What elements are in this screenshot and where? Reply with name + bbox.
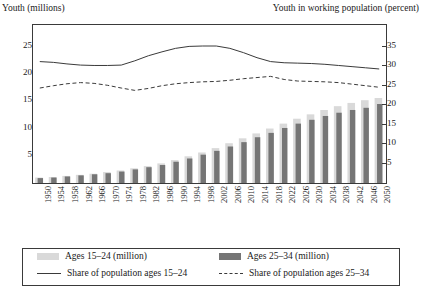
x-tick-label: 1994 [192,186,202,203]
bar [78,175,83,183]
x-tick-label: 1970 [111,186,121,203]
chart-canvas [33,25,386,183]
right-axis: 5101520253035 [387,24,413,184]
x-tick-label: 1954 [56,186,66,203]
bar [160,165,165,183]
x-tick-label: 1950 [43,186,53,203]
left-axis-title: Youth (millions) [2,3,65,13]
bar [38,178,43,183]
right-tick-mark [382,124,386,125]
legend-marker-line-solid-icon [37,273,61,274]
bar [214,151,219,183]
bar [173,162,178,183]
plot-area [32,24,387,184]
x-tick-label: 1986 [165,186,175,203]
bar [363,108,368,183]
bar [241,142,246,183]
legend-item: Share of population ages 15–24 [37,268,187,278]
x-tick-label: 1958 [70,186,80,203]
bar [282,128,287,183]
right-tick-label: 30 [387,59,405,69]
bar [350,110,355,183]
bar [255,137,260,183]
bar [309,120,314,183]
bar [106,173,111,183]
legend-marker-swatch-light-icon [37,253,59,260]
left-axis: 510152025 [10,24,32,184]
bar [187,158,192,183]
x-tick-label: 1974 [124,186,134,203]
legend-item: Ages 25–34 (million) [219,251,329,261]
trend-line [40,46,379,69]
x-tick-label: 2034 [328,186,338,203]
right-tick-label: 10 [387,137,405,147]
x-tick-label: 1998 [206,186,216,203]
x-tick-label: 2002 [219,186,229,203]
left-tick-label: 10 [16,122,32,132]
right-tick-mark [382,143,386,144]
x-tick-label: 2046 [369,186,379,203]
x-tick-label: 2006 [233,186,243,203]
legend-marker-line-dashed-icon [219,273,243,274]
bar [323,116,328,183]
legend-label: Share of population ages 15–24 [67,268,187,278]
x-tick-label: 2026 [301,186,311,203]
trend-line [40,76,379,90]
x-tick-label: 2022 [287,186,297,203]
x-tick-label: 1966 [97,186,107,203]
right-tick-label: 15 [387,118,405,128]
bar [133,169,138,183]
right-tick-label: 25 [387,79,405,89]
right-tick-mark [382,85,386,86]
right-tick-mark [382,163,386,164]
x-tick-label: 2018 [274,186,284,203]
x-tick-label: 1978 [138,186,148,203]
x-tick-label: 1982 [151,186,161,203]
bar [51,178,56,183]
right-tick-mark [382,46,386,47]
left-tick-label: 15 [16,94,32,104]
x-tick-label: 1990 [179,186,189,203]
chart-figure: Youth (millions) Youth in working popula… [0,0,422,292]
right-tick-label: 20 [387,98,405,108]
right-tick-mark [382,65,386,66]
x-tick-label: 2050 [382,186,392,203]
x-tick-label: 2038 [341,186,351,203]
right-axis-title: Youth in working population (percent) [273,3,419,13]
legend-marker-swatch-dark-icon [219,253,241,260]
left-tick-label: 25 [16,40,32,50]
legend-item: Ages 15–24 (million) [37,251,147,261]
right-tick-label: 35 [387,40,405,50]
x-tick-label: 2014 [260,186,270,203]
bar [92,174,97,183]
chart-legend: Ages 15–24 (million)Ages 25–34 (million)… [22,248,400,286]
bar [146,167,151,183]
right-tick-mark [382,104,386,105]
x-tick-label: 1962 [84,186,94,203]
bar [65,176,70,183]
x-tick-label: 2042 [355,186,365,203]
bar [296,124,301,183]
right-tick-label: 5 [387,157,405,167]
left-tick-label: 20 [16,67,32,77]
x-tick-label: 2010 [246,186,256,203]
legend-label: Ages 15–24 (million) [65,251,147,261]
x-tick-label: 2030 [314,186,324,203]
left-tick-label: 5 [16,149,32,159]
bar [228,147,233,184]
legend-label: Share of population ages 25–34 [249,268,369,278]
legend-label: Ages 25–34 (million) [247,251,329,261]
bar [336,113,341,183]
bar [268,133,273,183]
bar [201,155,206,183]
x-axis-labels: 1950195419581962196619701974197819821986… [32,186,387,242]
legend-item: Share of population ages 25–34 [219,268,369,278]
plot-inner [33,25,386,183]
bar [119,172,124,183]
